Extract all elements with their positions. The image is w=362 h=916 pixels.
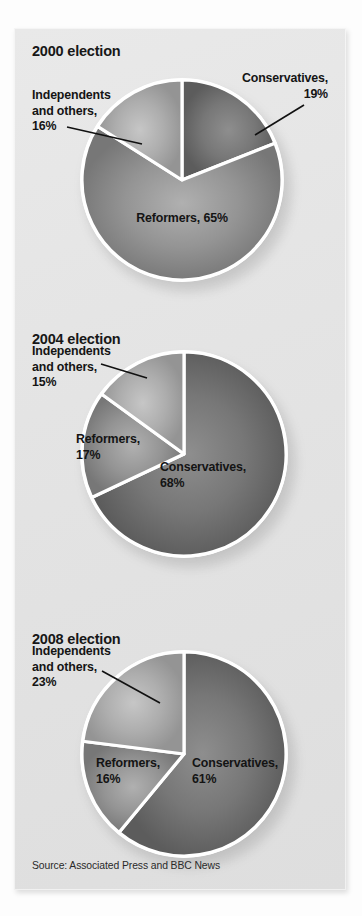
- infographic-panel: 2000 election Independents and others, 1…: [14, 28, 346, 890]
- pie-label-conservatives-1: Conservatives, 68%: [160, 460, 300, 491]
- source-note: Source: Associated Press and BBC News: [32, 860, 220, 871]
- pie-label-independents-0: Independents and others, 16%: [32, 88, 152, 135]
- infographic-root: 2000 election Independents and others, 1…: [0, 0, 362, 916]
- pie-label-reformers-1: Reformers, 17%: [76, 432, 186, 463]
- pie-label-independents-2: Independents and others, 23%: [32, 644, 154, 691]
- pie-label-independents-1: Independents and others, 15%: [32, 344, 154, 391]
- pie-label-reformers-0: Reformers, 65%: [112, 211, 252, 227]
- pie-label-conservatives-2: Conservatives, 61%: [192, 756, 332, 787]
- pie-label-conservatives-0: Conservatives, 19%: [188, 71, 328, 102]
- pie-label-reformers-2: Reformers, 16%: [96, 756, 206, 787]
